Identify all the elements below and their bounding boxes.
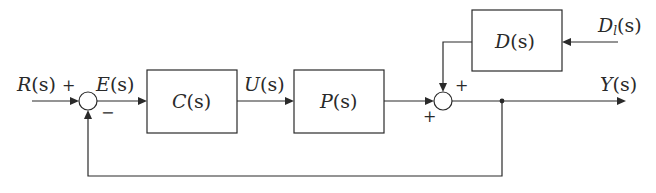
plus-sign-disturbance: + — [455, 76, 468, 95]
summing-junction-output — [434, 92, 452, 110]
arrow-head-icon — [285, 97, 294, 105]
arrow-head-icon — [70, 97, 79, 105]
control-signal-label: U(s) — [244, 73, 285, 95]
plus-sign-reference: + — [62, 76, 75, 95]
summing-junction-error — [79, 92, 97, 110]
arrow-head-icon — [617, 97, 626, 105]
controller-label: C(s) — [172, 90, 211, 112]
error-label: E(s) — [95, 73, 134, 95]
plus-sign-plant: + — [423, 107, 436, 126]
arrow-head-icon — [425, 97, 434, 105]
output-label: Y(s) — [600, 73, 637, 95]
plant-label: P(s) — [319, 90, 357, 112]
arrow-head-icon — [562, 38, 571, 46]
reference-label: R(s) — [16, 73, 56, 95]
minus-sign-feedback: − — [101, 103, 114, 122]
arrow-head-icon — [439, 83, 447, 92]
arrow-head-icon — [84, 110, 92, 119]
disturbance-block-label: D(s) — [494, 30, 535, 52]
block-diagram: R(s) + E(s) − C(s) U(s) P(s) D(s) Dl(s) … — [0, 0, 656, 193]
disturbance-input-label: Dl(s) — [597, 14, 642, 38]
arrow-head-icon — [138, 97, 147, 105]
